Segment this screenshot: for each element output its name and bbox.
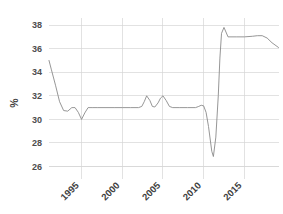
y-axis-tick-label: 28 bbox=[32, 138, 42, 148]
y-axis-tick-label: 30 bbox=[32, 115, 42, 125]
y-axis-tick-label: 32 bbox=[32, 91, 42, 101]
chart-container: 26283032343638 19952000200520102015 % bbox=[0, 0, 283, 214]
y-axis-tick-label: 38 bbox=[32, 20, 42, 30]
y-axis-tick-label: 34 bbox=[32, 67, 42, 77]
y-axis-tick-label: 26 bbox=[32, 162, 42, 172]
y-axis-title: % bbox=[8, 98, 20, 108]
y-axis-tick-label: 36 bbox=[32, 44, 42, 54]
line-chart: 26283032343638 19952000200520102015 % bbox=[0, 0, 283, 214]
